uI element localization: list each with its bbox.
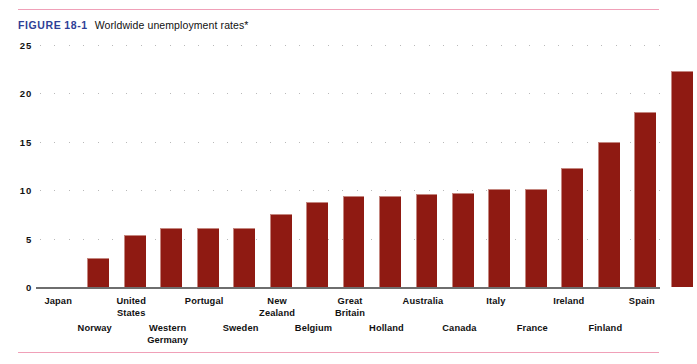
gridline-dot [69, 190, 70, 191]
bar-slot [124, 45, 146, 287]
x-tick-label: NewZealand [239, 296, 316, 319]
gridline-dot [40, 93, 41, 94]
bar [124, 235, 146, 287]
x-tick-label: Norway [56, 323, 133, 335]
bar [561, 168, 583, 287]
bar [634, 112, 656, 287]
bar [488, 189, 510, 287]
bar-slot [197, 45, 219, 287]
bar-slot [488, 45, 510, 287]
bar-slot [233, 45, 255, 287]
x-tick-label: Sweden [202, 323, 279, 335]
chart-plot: 0510152025 [0, 45, 677, 295]
y-tick-label: 5 [0, 233, 32, 244]
top-rule [18, 9, 659, 10]
x-tick-label: Ireland [531, 296, 608, 308]
bar [598, 142, 620, 287]
figure-caption-text: Worldwide unemployment rates* [95, 19, 249, 31]
bar-slot [525, 45, 547, 287]
bar-slot [598, 45, 620, 287]
y-tick-label: 15 [0, 136, 32, 147]
bar-slot [306, 45, 328, 287]
x-tick-label: Belgium [275, 323, 352, 335]
gridline-dot [69, 93, 70, 94]
x-tick-label: GreatBritain [312, 296, 389, 319]
bar [87, 258, 109, 287]
bar-slot [634, 45, 656, 287]
x-tick-label: Portugal [166, 296, 243, 308]
bar-slot [270, 45, 292, 287]
bottom-rule [18, 352, 659, 353]
gridline-dot [40, 45, 41, 46]
bar [197, 228, 219, 287]
gridline-dot [40, 142, 41, 143]
x-tick-label: Italy [458, 296, 535, 308]
figure-caption: FIGURE18-1Worldwide unemployment rates* [18, 19, 249, 31]
x-tick-label: Canada [421, 323, 498, 335]
bar [379, 196, 401, 287]
y-tick-label: 10 [0, 185, 32, 196]
x-tick-label: France [494, 323, 571, 335]
gridline-dot [54, 190, 55, 191]
bar-slot [671, 45, 693, 287]
figure-number: 18-1 [64, 19, 87, 31]
gridline-dot [69, 45, 70, 46]
bar-slot [416, 45, 438, 287]
bar-slot [87, 45, 109, 287]
bar [671, 71, 693, 287]
gridline-dot [54, 239, 55, 240]
gridline-dot [40, 239, 41, 240]
gridline-dot [54, 45, 55, 46]
y-tick-label: 25 [0, 40, 32, 51]
bar [233, 228, 255, 287]
gridline-dot [54, 93, 55, 94]
x-tick-label: Finland [567, 323, 644, 335]
bar [160, 228, 182, 287]
x-tick-label: Holland [348, 323, 425, 335]
x-axis-line [36, 287, 660, 289]
x-tick-label: WesternGermany [129, 323, 206, 346]
bar [270, 214, 292, 287]
bar-series [80, 45, 697, 287]
x-tick-label: Spain [603, 296, 680, 308]
y-tick-label: 0 [0, 282, 32, 293]
bar [343, 196, 365, 287]
bar-slot [343, 45, 365, 287]
bar-slot [379, 45, 401, 287]
gridline-dot [69, 239, 70, 240]
bar [416, 194, 438, 287]
x-tick-label: Japan [20, 296, 97, 308]
x-axis-labels: JapanNorwayUnitedStatesWesternGermanyPor… [40, 296, 660, 358]
bar-slot [160, 45, 182, 287]
x-tick-label: UnitedStates [93, 296, 170, 319]
y-tick-label: 20 [0, 88, 32, 99]
bar [525, 189, 547, 287]
gridline-dot [69, 142, 70, 143]
plot-area [40, 45, 660, 287]
bar [452, 193, 474, 287]
figure-label: FIGURE [18, 19, 61, 31]
gridline-dot [54, 142, 55, 143]
bar [306, 202, 328, 287]
gridline-dot [40, 190, 41, 191]
bar-slot [561, 45, 583, 287]
bar-slot [452, 45, 474, 287]
x-tick-label: Australia [385, 296, 462, 308]
